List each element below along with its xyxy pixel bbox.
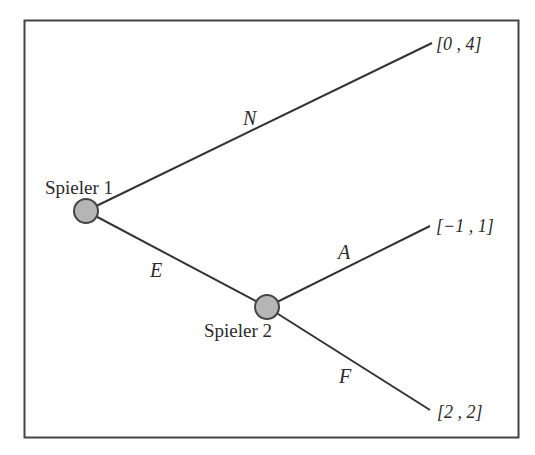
payoff-leaf-3: [2 , 2] xyxy=(437,403,483,421)
edge-e xyxy=(86,211,267,307)
node-spieler-1 xyxy=(74,199,98,223)
game-tree-diagram: Spieler 1 Spieler 2 N E A F [0 , 4] [−1 … xyxy=(0,0,535,455)
edge-f xyxy=(267,307,430,410)
edge-a xyxy=(267,226,430,307)
payoff-leaf-2: [−1 , 1] xyxy=(436,217,494,235)
player-2-label: Spieler 2 xyxy=(204,321,272,340)
node-spieler-2 xyxy=(255,295,279,319)
edge-label-a: A xyxy=(338,242,350,262)
edge-label-e: E xyxy=(150,260,162,280)
edge-label-f: F xyxy=(339,366,351,386)
edge-n xyxy=(86,43,432,211)
payoff-leaf-1: [0 , 4] xyxy=(436,35,482,53)
player-1-label: Spieler 1 xyxy=(45,178,113,197)
edge-label-n: N xyxy=(243,108,256,128)
